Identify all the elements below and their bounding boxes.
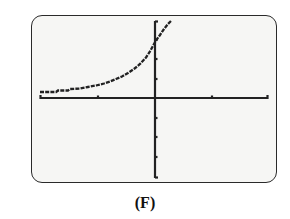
figure-caption: (F): [0, 194, 290, 212]
y-axis: [155, 21, 158, 178]
graph: [0, 0, 290, 219]
exponential-curve: [40, 21, 171, 92]
